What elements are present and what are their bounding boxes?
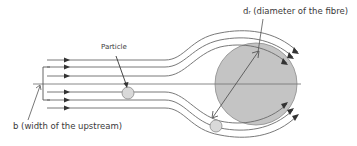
upstream-width-bracket	[43, 67, 50, 100]
particle-upstream	[122, 87, 134, 99]
upstream-width-leader	[28, 86, 40, 120]
particle-label: Particle	[101, 43, 127, 51]
upstream-width-label: b (width of the upstream)	[13, 121, 122, 131]
fibre-diameter-label: dᵣ (diameter of the fibre)	[243, 6, 348, 16]
particle-captured	[210, 120, 222, 132]
